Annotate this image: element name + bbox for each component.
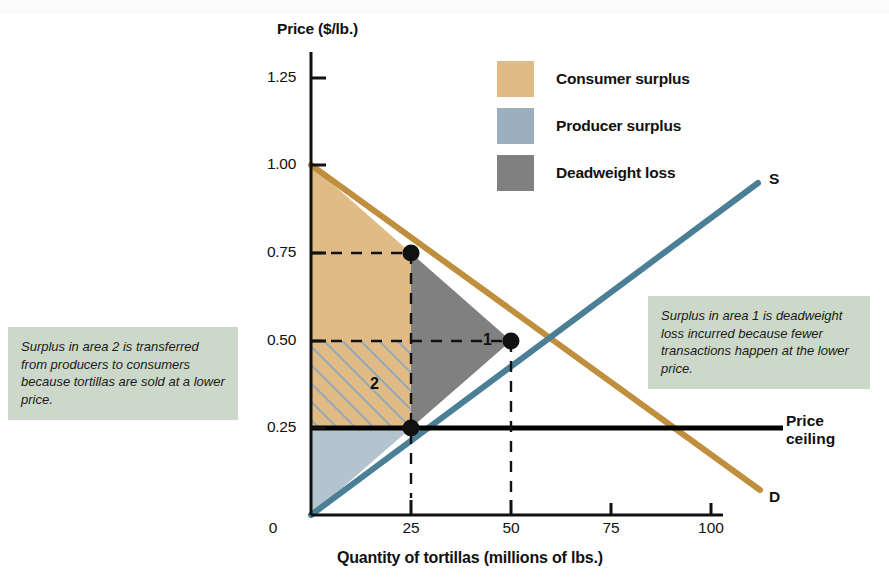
- y-tick-label-125: 1.25: [234, 68, 296, 86]
- y-axis-title: Price ($/lb.): [277, 20, 358, 38]
- legend-item-deadweight-loss: Deadweight loss: [497, 155, 675, 191]
- demand-curve-label: D: [769, 488, 780, 506]
- y-tick-label-025: 0.25: [234, 418, 296, 436]
- marker-point-25-025: [403, 420, 420, 437]
- region-area-two-transfer: [311, 341, 411, 428]
- economics-chart-figure: Price ($/lb.) Quantity of tortillas (mil…: [0, 0, 889, 588]
- x-tick-label-25: 25: [396, 519, 426, 537]
- x-tick-label-100: 100: [692, 519, 730, 537]
- legend-swatch-deadweight-loss: [497, 155, 534, 191]
- legend-swatch-consumer-surplus: [497, 61, 534, 97]
- marker-point-50-050: [503, 333, 520, 350]
- legend-item-consumer-surplus: Consumer surplus: [497, 61, 690, 97]
- x-tick-label-50: 50: [496, 519, 526, 537]
- annotation-note-area-two: Surplus in area 2 is transferred from pr…: [8, 327, 238, 420]
- price-ceiling-label-line2: ceiling: [786, 430, 835, 448]
- legend-label-producer-surplus: Producer surplus: [556, 117, 681, 135]
- supply-curve-label: S: [769, 170, 779, 188]
- legend-label-consumer-surplus: Consumer surplus: [556, 70, 690, 88]
- y-tick-label-100: 1.00: [234, 155, 296, 173]
- x-tick-label-0: 0: [263, 519, 283, 537]
- legend-label-deadweight-loss: Deadweight loss: [556, 164, 675, 182]
- area-label-one: 1: [483, 331, 492, 349]
- chart-plot-area: [0, 0, 889, 588]
- area-label-two: 2: [370, 375, 379, 393]
- legend-swatch-producer-surplus: [497, 108, 534, 144]
- y-tick-label-050: 0.50: [234, 331, 296, 349]
- x-axis-title: Quantity of tortillas (millions of lbs.): [337, 549, 603, 567]
- annotation-note-area-one: Surplus in area 1 is deadweight loss inc…: [648, 296, 870, 389]
- price-ceiling-label-line1: Price: [786, 412, 835, 430]
- marker-point-25-075: [403, 245, 420, 262]
- price-ceiling-label: Price ceiling: [786, 412, 835, 447]
- x-tick-label-75: 75: [596, 519, 626, 537]
- legend-item-producer-surplus: Producer surplus: [497, 108, 681, 144]
- y-tick-label-075: 0.75: [234, 243, 296, 261]
